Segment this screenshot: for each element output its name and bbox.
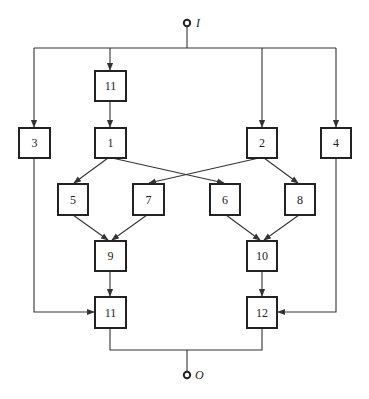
svg-text:2: 2 <box>259 136 265 150</box>
node-1: 1 <box>95 128 126 158</box>
block-diagram: I O 11 3 1 2 4 5 7 6 8 <box>0 0 369 399</box>
input-terminal-icon <box>184 20 190 26</box>
node-2: 2 <box>247 128 277 158</box>
svg-text:9: 9 <box>108 249 114 263</box>
node-5: 5 <box>58 184 88 215</box>
output-bus <box>110 328 262 372</box>
node-11-bottom: 11 <box>95 297 126 328</box>
node-4: 4 <box>321 128 351 158</box>
output-terminal-icon <box>184 372 190 378</box>
input-bus <box>34 26 336 127</box>
svg-text:3: 3 <box>32 136 38 150</box>
node-9: 9 <box>95 241 126 271</box>
svg-text:10: 10 <box>256 249 268 263</box>
node-7: 7 <box>133 184 164 215</box>
node-10: 10 <box>247 241 277 271</box>
svg-text:5: 5 <box>70 193 76 207</box>
svg-text:8: 8 <box>297 193 303 207</box>
input-terminal: I <box>184 16 201 30</box>
node-3: 3 <box>19 128 50 158</box>
svg-text:11: 11 <box>105 79 117 93</box>
svg-text:7: 7 <box>146 193 152 207</box>
svg-text:11: 11 <box>105 306 117 320</box>
svg-text:1: 1 <box>108 136 114 150</box>
svg-text:12: 12 <box>256 306 268 320</box>
node-11-top: 11 <box>95 71 126 101</box>
output-label: O <box>195 368 204 382</box>
node-8: 8 <box>285 184 315 215</box>
svg-text:4: 4 <box>333 136 339 150</box>
input-label: I <box>195 16 201 30</box>
node-6: 6 <box>210 184 240 215</box>
node-12: 12 <box>247 297 277 328</box>
svg-text:6: 6 <box>222 193 228 207</box>
